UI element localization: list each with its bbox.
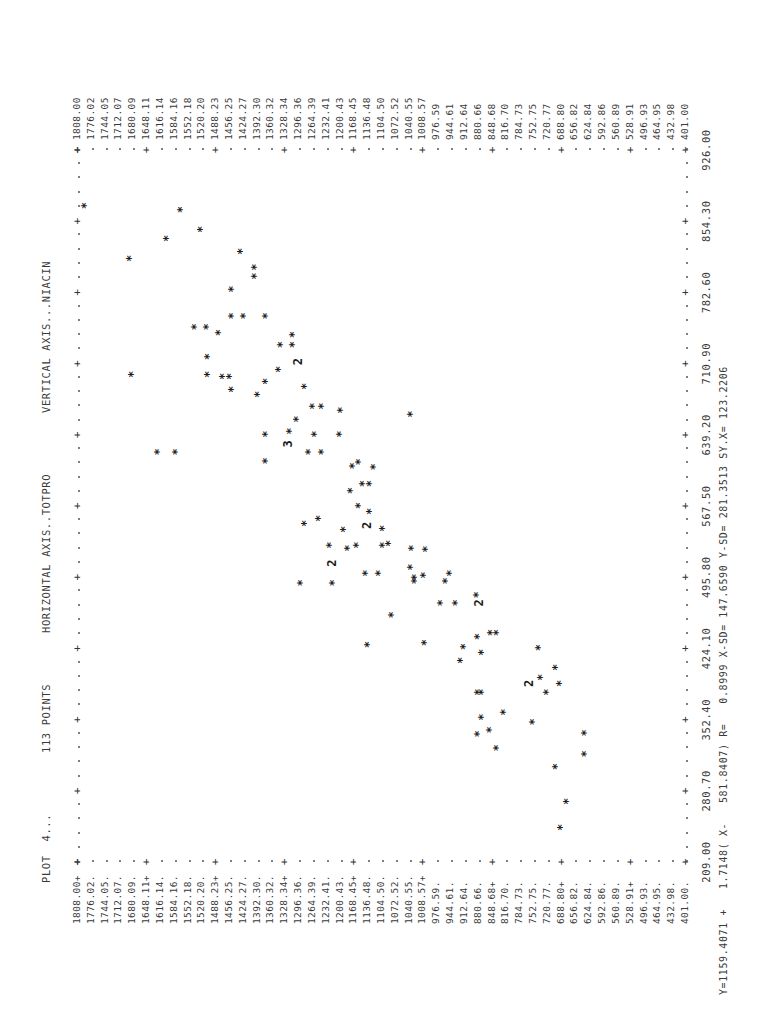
axis-tick-plus: +: [141, 857, 152, 867]
data-point: *: [250, 261, 262, 273]
axis-dot: [78, 532, 80, 534]
axis-dot: [686, 817, 688, 819]
data-point: *: [365, 505, 377, 517]
axis-dot: [78, 390, 80, 392]
axis-dot: [189, 860, 191, 862]
axis-dot: [78, 518, 80, 520]
data-point: *: [317, 446, 329, 458]
y-tick-label-right: 816.70: [499, 103, 510, 140]
axis-dot: [589, 148, 591, 150]
axis-tick-plus: +: [72, 359, 83, 369]
axis-dot: [202, 860, 204, 862]
axis-dot: [686, 148, 688, 150]
axis-dot: [686, 390, 688, 392]
data-point: *: [196, 223, 208, 235]
axis-tick-plus: +: [625, 145, 636, 155]
data-point: *: [225, 370, 237, 382]
data-point: *: [176, 204, 188, 216]
axis-dot: [341, 148, 343, 150]
axis-tick-plus: +: [72, 572, 83, 582]
axis-dot: [78, 347, 80, 349]
axis-dot: [327, 148, 329, 150]
axis-dot: [506, 860, 508, 862]
axis-dot: [686, 233, 688, 235]
data-point: *: [261, 310, 273, 322]
y-tick-label-right: 1808.00: [71, 97, 82, 140]
data-point: *: [378, 539, 390, 551]
data-point: *: [555, 677, 567, 689]
data-point: *: [407, 542, 419, 554]
y-tick-label: 688.80+: [555, 881, 566, 924]
axis-dot: [78, 632, 80, 634]
axis-dot: [617, 148, 619, 150]
data-point: *: [459, 641, 471, 653]
x-tick-label: 495.80: [700, 556, 712, 598]
axis-dot: [686, 675, 688, 677]
y-tick-label: 496.93.: [638, 881, 649, 924]
axis-dot: [686, 532, 688, 534]
y-tick-label: 1520.20.: [195, 875, 206, 924]
axis-dot: [686, 262, 688, 264]
axis-tick-plus: +: [417, 857, 428, 867]
data-point: *: [369, 461, 381, 473]
axis-dot: [686, 447, 688, 449]
x-tick-label: 639.20: [700, 414, 712, 456]
axis-dot: [78, 689, 80, 691]
data-point: *: [374, 567, 386, 579]
data-point: *: [562, 795, 574, 807]
y-tick-label-right: 912.64: [458, 103, 469, 140]
axis-dot: [686, 476, 688, 478]
axis-dot: [368, 860, 370, 862]
y-tick-label: 1776.02.: [85, 875, 96, 924]
axis-dot: [686, 732, 688, 734]
y-tick-label-right: 1616.14: [154, 97, 165, 140]
y-tick-label: 528.91+: [624, 881, 635, 924]
y-tick-label: 1616.14.: [154, 875, 165, 924]
axis-dot: [686, 305, 688, 307]
axis-dot: [451, 148, 453, 150]
y-tick-label: 1392.30.: [251, 875, 262, 924]
axis-tick-plus: +: [72, 145, 83, 155]
data-point: *: [310, 428, 322, 440]
axis-tick-plus: +: [680, 216, 691, 226]
y-tick-label-right: 1776.02: [85, 97, 96, 140]
axis-dot: [78, 817, 80, 819]
y-tick-label: 560.89.: [610, 881, 621, 924]
axis-dot: [78, 376, 80, 378]
data-point: 2: [326, 557, 338, 569]
data-point: *: [492, 742, 504, 754]
axis-dot: [78, 333, 80, 335]
y-tick-label: 1488.23+: [209, 875, 220, 924]
data-point: *: [339, 523, 351, 535]
y-tick-label-right: 1424.27: [237, 97, 248, 140]
y-tick-label-right: 592.86: [596, 103, 607, 140]
axis-dot: [175, 148, 177, 150]
data-point: *: [346, 485, 358, 497]
axis-tick-plus: +: [72, 857, 83, 867]
axis-dot: [686, 618, 688, 620]
axis-dot: [617, 860, 619, 862]
y-tick-label-right: 1744.05: [99, 97, 110, 140]
y-tick-label-right: 432.98: [665, 103, 676, 140]
y-tick-label: 1808.00+: [71, 875, 82, 924]
axis-dot: [658, 148, 660, 150]
data-point: *: [477, 646, 489, 658]
axis-tick-plus: +: [680, 715, 691, 725]
data-point: *: [410, 575, 422, 587]
axis-dot: [686, 846, 688, 848]
axis-dot: [437, 860, 439, 862]
axis-dot: [78, 703, 80, 705]
axis-dot: [686, 832, 688, 834]
axis-dot: [106, 148, 108, 150]
axis-dot: [686, 632, 688, 634]
y-tick-label: 1168.45+: [347, 875, 358, 924]
axis-tick-plus: +: [348, 857, 359, 867]
printout-sheet: PLOT 4... 113 POINTS HORIZONTAL AXIS..TO…: [0, 0, 764, 1023]
data-point: 2: [473, 597, 485, 609]
axis-dot: [686, 490, 688, 492]
data-point: *: [227, 283, 239, 295]
axis-dot: [534, 148, 536, 150]
axis-tick-plus: +: [279, 857, 290, 867]
data-point: *: [343, 542, 355, 554]
x-tick-label: 926.00: [700, 129, 712, 171]
